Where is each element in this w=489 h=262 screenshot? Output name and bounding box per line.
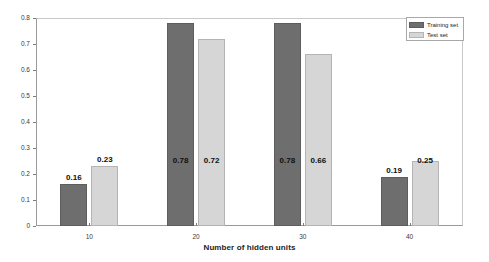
bar-test-set-10 <box>91 166 118 226</box>
bar-training-set-30 <box>274 23 301 226</box>
x-axis-tick-mark <box>89 223 90 226</box>
y-axis-tick-label: 0.3 <box>21 143 30 152</box>
bar-value-label: 0.19 <box>378 166 411 175</box>
bar-training-set-10 <box>60 184 87 226</box>
x-axis-tick-mark <box>410 223 411 226</box>
y-axis-tick-mark <box>33 18 36 19</box>
bar-value-label: 0.23 <box>88 155 121 164</box>
bar-value-label: 0.25 <box>409 156 442 165</box>
y-axis-tick-mark <box>33 44 36 45</box>
y-axis-tick-label: 0.7 <box>21 39 30 48</box>
legend-label-test-set: Test set <box>427 31 448 39</box>
x-axis-tick-label: 20 <box>180 232 212 241</box>
y-axis-tick-label: 0.1 <box>21 195 30 204</box>
y-axis-tick-label: 0.5 <box>21 91 30 100</box>
y-axis-tick-label: 0 <box>26 221 30 230</box>
y-axis-tick-label: 0.2 <box>21 169 30 178</box>
bar-chart-figure: 00.10.20.30.40.50.60.70.8 10203040 0.160… <box>0 0 489 262</box>
x-axis-title: Number of hidden units <box>36 243 463 252</box>
bar-test-set-30 <box>305 54 332 226</box>
x-axis-tick-label: 30 <box>287 232 319 241</box>
legend-swatch-test-set <box>409 32 424 38</box>
y-axis-tick-mark <box>33 226 36 227</box>
legend-item-test-set: Test set <box>409 30 461 39</box>
y-axis-tick-mark <box>33 122 36 123</box>
bar-value-label: 0.66 <box>302 156 335 165</box>
y-axis-tick-label: 0.8 <box>21 13 30 22</box>
bar-test-set-20 <box>198 39 225 226</box>
y-axis-tick-mark <box>33 200 36 201</box>
bar-training-set-20 <box>167 23 194 226</box>
y-axis-tick-label: 0.6 <box>21 65 30 74</box>
legend-label-training-set: Training set <box>427 21 458 29</box>
bar-value-label: 0.72 <box>195 156 228 165</box>
x-axis-tick-mark <box>303 223 304 226</box>
y-axis-tick-mark <box>33 70 36 71</box>
x-axis-tick-mark <box>196 223 197 226</box>
x-axis-tick-label: 40 <box>394 232 426 241</box>
y-axis-tick-mark <box>33 96 36 97</box>
bar-value-label: 0.16 <box>57 173 90 182</box>
bar-test-set-40 <box>412 161 439 226</box>
legend-swatch-training-set <box>409 22 424 28</box>
bar-value-label: 0.78 <box>164 156 197 165</box>
legend-item-training-set: Training set <box>409 20 461 29</box>
bar-training-set-40 <box>381 177 408 226</box>
x-axis-tick-label: 10 <box>73 232 105 241</box>
y-axis-tick-mark <box>33 148 36 149</box>
y-axis-tick-mark <box>33 174 36 175</box>
bar-value-label: 0.78 <box>271 156 304 165</box>
y-axis-tick-label: 0.4 <box>21 117 30 126</box>
chart-legend: Training set Test set <box>406 17 464 41</box>
